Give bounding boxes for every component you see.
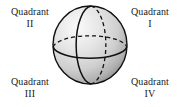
quadrant-label-ii-numeral: II [2,18,58,30]
quadrant-label-iv-numeral: IV [122,88,178,100]
quadrant-label-ii-word: Quadrant [2,6,58,18]
quadrant-label-i-word: Quadrant [122,6,178,18]
quadrant-label-i: Quadrant I [122,6,178,29]
quadrant-label-iii-numeral: III [2,88,58,100]
sphere-diagram [51,4,129,86]
sphere-body [53,6,127,84]
quadrant-label-i-numeral: I [122,18,178,30]
quadrant-label-iii-word: Quadrant [2,76,58,88]
quadrant-label-iv: Quadrant IV [122,76,178,99]
quadrant-label-iv-word: Quadrant [122,76,178,88]
quadrant-label-ii: Quadrant II [2,6,58,29]
quadrant-label-iii: Quadrant III [2,76,58,99]
sphere-quadrant-figure: Quadrant II Quadrant I Quadrant III Quad… [0,0,180,107]
